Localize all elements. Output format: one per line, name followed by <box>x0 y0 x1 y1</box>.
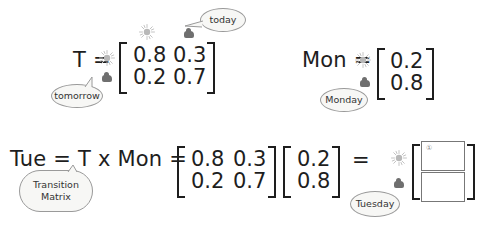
vector-cell: 0.2 <box>297 148 330 171</box>
vector-cell: 0.8 <box>297 170 330 193</box>
left-bracket <box>412 144 420 200</box>
sun-icon <box>391 150 407 166</box>
matrix-cell: 0.2 <box>133 66 166 89</box>
right-bracket <box>207 42 215 94</box>
callout-tail <box>83 76 95 88</box>
matrix-cell: 0.8 <box>133 44 166 67</box>
vector-cell: 0.2 <box>390 50 423 73</box>
result-cell-sunny: ① <box>421 141 465 171</box>
sun-icon <box>99 50 115 66</box>
matrix-cell: 0.3 <box>173 44 206 67</box>
sun-icon <box>355 52 371 68</box>
cloud-icon <box>394 181 404 188</box>
callout-transition-matrix: Transition Matrix <box>19 170 93 212</box>
callout-tail <box>66 165 80 173</box>
callout-monday: Monday <box>320 88 368 112</box>
cloud-icon <box>184 31 194 38</box>
tue-label: Tue = T x Mon = <box>10 147 187 171</box>
vector-cell: 0.8 <box>390 72 423 95</box>
callout-text: tomorrow <box>54 90 100 102</box>
left-bracket <box>119 42 127 94</box>
callout-text: Tuesday <box>356 198 395 210</box>
cloud-icon <box>102 75 112 82</box>
equals-sign: = <box>352 148 370 172</box>
callout-tomorrow: tomorrow <box>51 84 103 108</box>
sun-icon <box>139 24 155 40</box>
callout-today: today <box>200 8 246 32</box>
matrix-cell: 0.3 <box>233 148 266 171</box>
result-cell-cloudy <box>421 172 465 202</box>
left-bracket <box>177 146 185 198</box>
matrix-cell: 0.8 <box>191 148 224 171</box>
left-bracket <box>283 146 291 198</box>
matrix-cell: 0.2 <box>191 170 224 193</box>
callout-text: Transition Matrix <box>30 179 82 203</box>
matrix-cell: 0.7 <box>233 170 266 193</box>
cloud-icon <box>360 80 370 87</box>
right-bracket <box>467 144 475 200</box>
callout-tuesday: Tuesday <box>350 191 400 217</box>
right-bracket <box>268 146 276 198</box>
right-bracket <box>426 48 434 100</box>
marker-1: ① <box>426 144 432 152</box>
callout-text: today <box>209 14 236 26</box>
matrix-cell: 0.7 <box>173 66 206 89</box>
left-bracket <box>377 48 385 100</box>
callout-text: Monday <box>325 94 363 106</box>
right-bracket <box>332 146 340 198</box>
callout-tail <box>184 18 204 30</box>
